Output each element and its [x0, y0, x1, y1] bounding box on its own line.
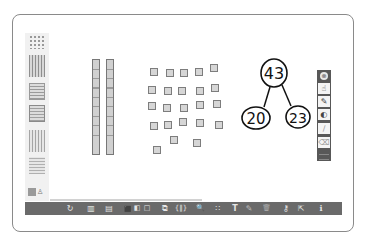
unit-cube[interactable]: [196, 87, 204, 95]
unit-cube[interactable]: [196, 119, 204, 127]
thousand-cube-icon[interactable]: [29, 105, 45, 122]
unit-cube[interactable]: [179, 118, 187, 126]
fill-none-icon[interactable]: □: [143, 202, 151, 215]
ten-rod[interactable]: [106, 59, 114, 155]
pen-tool-icon[interactable]: ✎: [318, 96, 330, 107]
flat-outline-icon[interactable]: [29, 157, 45, 174]
unit-cube[interactable]: [215, 121, 223, 129]
close-icon[interactable]: ⊗: [320, 72, 328, 80]
unit-cube[interactable]: [195, 68, 203, 76]
key-icon[interactable]: ⚷: [281, 202, 291, 215]
select-tool-icon[interactable]: ☝: [318, 83, 330, 94]
unit-cube[interactable]: [148, 86, 156, 94]
highlighter-tool-icon[interactable]: ∕: [318, 123, 330, 134]
draw-icon[interactable]: ✎: [244, 202, 254, 215]
fill-dark-icon[interactable]: ⬛: [123, 202, 131, 215]
bottom-toolbar: ↻ ▥ ▤ ⬛ ◧ □ ⧉ {‖} 🔍 ∷ T ✎ 🗑 ⚷ ⇱ ℹ: [25, 202, 342, 215]
reset-icon[interactable]: ↻: [65, 202, 75, 215]
block-palette: [25, 33, 49, 201]
ten-rods-icon[interactable]: [29, 55, 45, 77]
unit-cube[interactable]: [196, 101, 204, 109]
eraser-tool-icon[interactable]: ⌫: [318, 137, 330, 148]
palette-settings-button[interactable]: ♙: [28, 188, 44, 196]
unit-cube[interactable]: [213, 100, 221, 108]
settings-icon: [28, 188, 36, 196]
unit-cube[interactable]: [180, 69, 188, 77]
unit-cube[interactable]: [163, 104, 171, 112]
unit-cube[interactable]: [170, 136, 178, 144]
unit-cube[interactable]: [150, 122, 158, 130]
zoom-icon[interactable]: 🔍: [195, 202, 205, 215]
fill-medium-icon[interactable]: ◧: [133, 202, 141, 215]
unit-cube[interactable]: [211, 84, 219, 92]
duplicate-icon[interactable]: ⧉: [160, 202, 170, 215]
unit-cube[interactable]: [164, 87, 172, 95]
drag-handle[interactable]: [319, 154, 329, 160]
unit-cube[interactable]: [164, 121, 172, 129]
unit-cube[interactable]: [148, 102, 156, 110]
unit-cube[interactable]: [153, 146, 161, 154]
unit-cube[interactable]: [178, 87, 186, 95]
hundred-flat-icon[interactable]: [29, 83, 45, 100]
unit-cube[interactable]: [193, 139, 201, 147]
unit-cube[interactable]: [210, 64, 218, 72]
unit-cube[interactable]: [166, 69, 174, 77]
horizontal-scrollbar[interactable]: [50, 199, 202, 201]
color-tool-icon[interactable]: ◐: [318, 109, 330, 120]
unit-cube[interactable]: [180, 104, 188, 112]
unit-cube[interactable]: [150, 68, 158, 76]
unit-cubes-icon[interactable]: [29, 35, 45, 49]
text-tool-icon[interactable]: T: [230, 202, 240, 215]
group-icon[interactable]: ▥: [85, 202, 97, 215]
ungroup-icon[interactable]: ▤: [103, 202, 115, 215]
share-icon[interactable]: ⇱: [296, 202, 306, 215]
align-icon[interactable]: ∷: [213, 202, 223, 215]
brackets-icon[interactable]: {‖}: [174, 202, 188, 215]
ten-rod[interactable]: [92, 59, 100, 155]
trash-icon[interactable]: 🗑: [261, 202, 271, 215]
info-icon[interactable]: ℹ: [316, 202, 326, 215]
person-icon: ♙: [37, 189, 44, 196]
rods-outline-icon[interactable]: [29, 130, 45, 152]
drawing-toolbar: ⊗ ☝ ✎ ◐ ∕ ⌫: [317, 70, 331, 161]
